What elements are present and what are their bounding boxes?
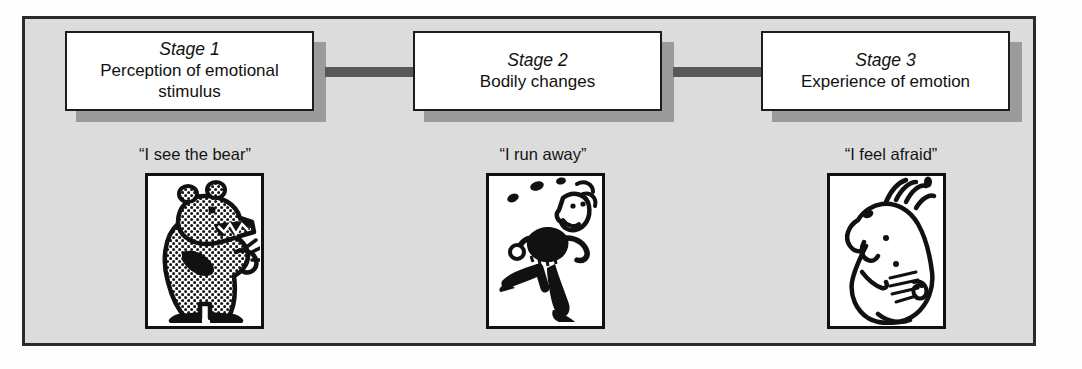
stage-description-2: Bodily changes — [472, 72, 603, 93]
stage-label-1: Stage 1 — [159, 39, 219, 61]
stage-box-2[interactable]: Stage 2 Bodily changes — [413, 31, 662, 111]
stage-box-wrapper-3: Stage 3 Experience of emotion — [761, 31, 1021, 119]
stage-quote-1: “I see the bear” — [65, 145, 325, 164]
running-person-illustration-art — [489, 176, 601, 325]
emotion-stages-figure: Stage 1 Perception of emotional stimulus… — [0, 0, 1082, 369]
stage-column-2: Stage 2 Bodily changes “I run away” — [413, 19, 685, 343]
stage-column-1: Stage 1 Perception of emotional stimulus… — [65, 19, 337, 343]
stage-box-wrapper-2: Stage 2 Bodily changes — [413, 31, 673, 119]
stage-description-1: Perception of emotional stimulus — [67, 61, 312, 102]
bear-illustration — [145, 173, 264, 329]
frightened-face-illustration-art — [830, 176, 942, 325]
running-person-illustration — [486, 173, 605, 329]
figure-panel: Stage 1 Perception of emotional stimulus… — [22, 16, 1036, 346]
frightened-face-illustration — [827, 173, 946, 329]
stage-box-3[interactable]: Stage 3 Experience of emotion — [761, 31, 1010, 111]
stage-quote-2: “I run away” — [413, 145, 673, 164]
stage-description-3: Experience of emotion — [793, 72, 978, 93]
stage-quote-3: “I feel afraid” — [761, 145, 1021, 164]
stage-label-2: Stage 2 — [507, 50, 567, 72]
stage-box-wrapper-1: Stage 1 Perception of emotional stimulus — [65, 31, 325, 119]
stage-box-1[interactable]: Stage 1 Perception of emotional stimulus — [65, 31, 314, 111]
stage-column-3: Stage 3 Experience of emotion “I feel af… — [761, 19, 1033, 343]
bear-illustration-art — [148, 176, 260, 325]
stage-label-3: Stage 3 — [855, 50, 915, 72]
